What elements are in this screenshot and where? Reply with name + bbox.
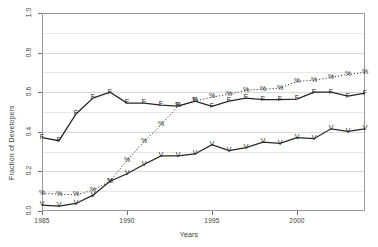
gridline-minor [43, 33, 364, 34]
x-tick-label: 1985 [34, 217, 49, 224]
x-tick-mark [212, 211, 213, 215]
gridline-minor [43, 152, 364, 153]
x-tick-label: 2000 [289, 217, 304, 224]
gridline-minor [43, 72, 364, 73]
y-tick-label: 0.8 [25, 44, 32, 60]
gridline [43, 53, 364, 54]
x-tick-label: 1995 [204, 217, 219, 224]
y-tick-label: 0.4 [25, 123, 32, 139]
y-tick-label: 0.0 [25, 203, 32, 219]
y-tick-label: 0.6 [25, 84, 32, 100]
gridline-minor [43, 112, 364, 113]
y-tick-label: 0.2 [25, 163, 32, 179]
y-tick-mark [38, 171, 42, 172]
gridline-minor [43, 191, 364, 192]
y-tick-mark [38, 132, 42, 133]
gridline [43, 92, 364, 93]
plot-area [42, 13, 365, 211]
x-tick-label: 1990 [119, 217, 134, 224]
x-axis-title: Years [0, 231, 378, 238]
x-tick-mark [297, 211, 298, 215]
chart-figure: Fraction of Developers 0.00.20.40.60.81.… [0, 0, 378, 247]
y-axis-title: Fraction of Developers [8, 105, 15, 180]
y-tick-label: 1.0 [25, 5, 32, 21]
x-tick-mark [42, 211, 43, 215]
gridline [43, 171, 364, 172]
x-tick-mark [127, 211, 128, 215]
y-tick-mark [38, 92, 42, 93]
gridline [43, 132, 364, 133]
y-tick-mark [38, 53, 42, 54]
y-tick-mark [38, 13, 42, 14]
